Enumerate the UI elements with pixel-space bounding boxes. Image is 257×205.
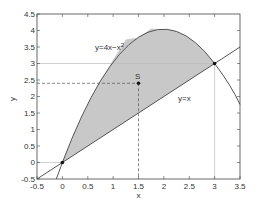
x-tick-label: 3.5 bbox=[234, 182, 246, 191]
y-tick-label: 2.5 bbox=[24, 76, 36, 85]
parabola-label: y=4x−x2 bbox=[95, 42, 125, 52]
y-axis-label: y bbox=[8, 97, 17, 101]
point-s bbox=[137, 82, 141, 86]
y-tick-label: 0 bbox=[31, 158, 36, 167]
y-tick-label: 2 bbox=[31, 92, 36, 101]
x-tick-label: 2.5 bbox=[184, 182, 196, 191]
y-tick-label: 3.5 bbox=[24, 43, 36, 52]
y-tick-label: 0.5 bbox=[24, 142, 36, 151]
y-tick-label: 3 bbox=[31, 59, 36, 68]
x-tick-label: 1.5 bbox=[133, 182, 145, 191]
line-label: y=x bbox=[178, 94, 191, 103]
y-tick-label: 1.5 bbox=[24, 109, 36, 118]
point-intersection bbox=[213, 62, 217, 66]
x-tick-label: 3 bbox=[212, 182, 217, 191]
point-origin bbox=[61, 161, 65, 165]
y-tick-label: 4 bbox=[31, 26, 36, 35]
x-tick-label: 2 bbox=[162, 182, 167, 191]
y-tick-label: 1 bbox=[31, 125, 36, 134]
x-tick-label: 0.5 bbox=[82, 182, 94, 191]
point-s-label: S bbox=[135, 72, 140, 81]
y-tick-label: 4.5 bbox=[24, 10, 36, 19]
x-axis-label: x bbox=[137, 191, 141, 200]
x-tick-label: 0 bbox=[60, 182, 65, 191]
chart: -0.5 0 0.5 1 1.5 2 2.5 3 3.5 x -0.5 0 0.… bbox=[0, 0, 257, 205]
y-tick-label: -0.5 bbox=[21, 175, 35, 184]
x-tick-label: 1 bbox=[111, 182, 116, 191]
